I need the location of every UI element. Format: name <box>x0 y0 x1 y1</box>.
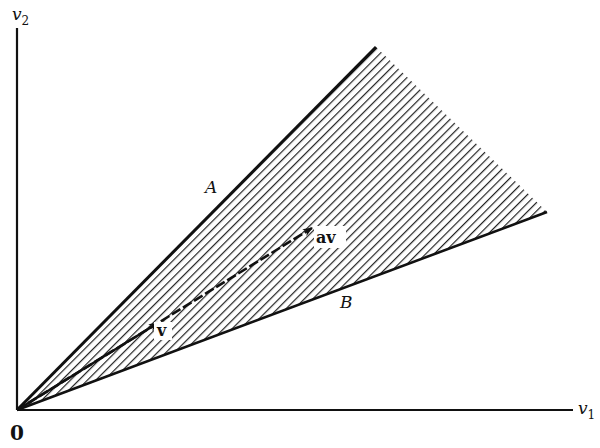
cone-region <box>17 47 547 410</box>
vector-av-label: av <box>316 228 336 247</box>
cone-diagram: v2 v1 0 A B av v <box>0 0 600 448</box>
ray-a-label: A <box>203 177 217 197</box>
y-axis-label: v2 <box>12 4 29 28</box>
ray-b-label: B <box>339 292 353 312</box>
vector-v-label: v <box>156 321 167 340</box>
origin-label: 0 <box>10 421 24 445</box>
x-axis-label: v1 <box>578 398 595 422</box>
